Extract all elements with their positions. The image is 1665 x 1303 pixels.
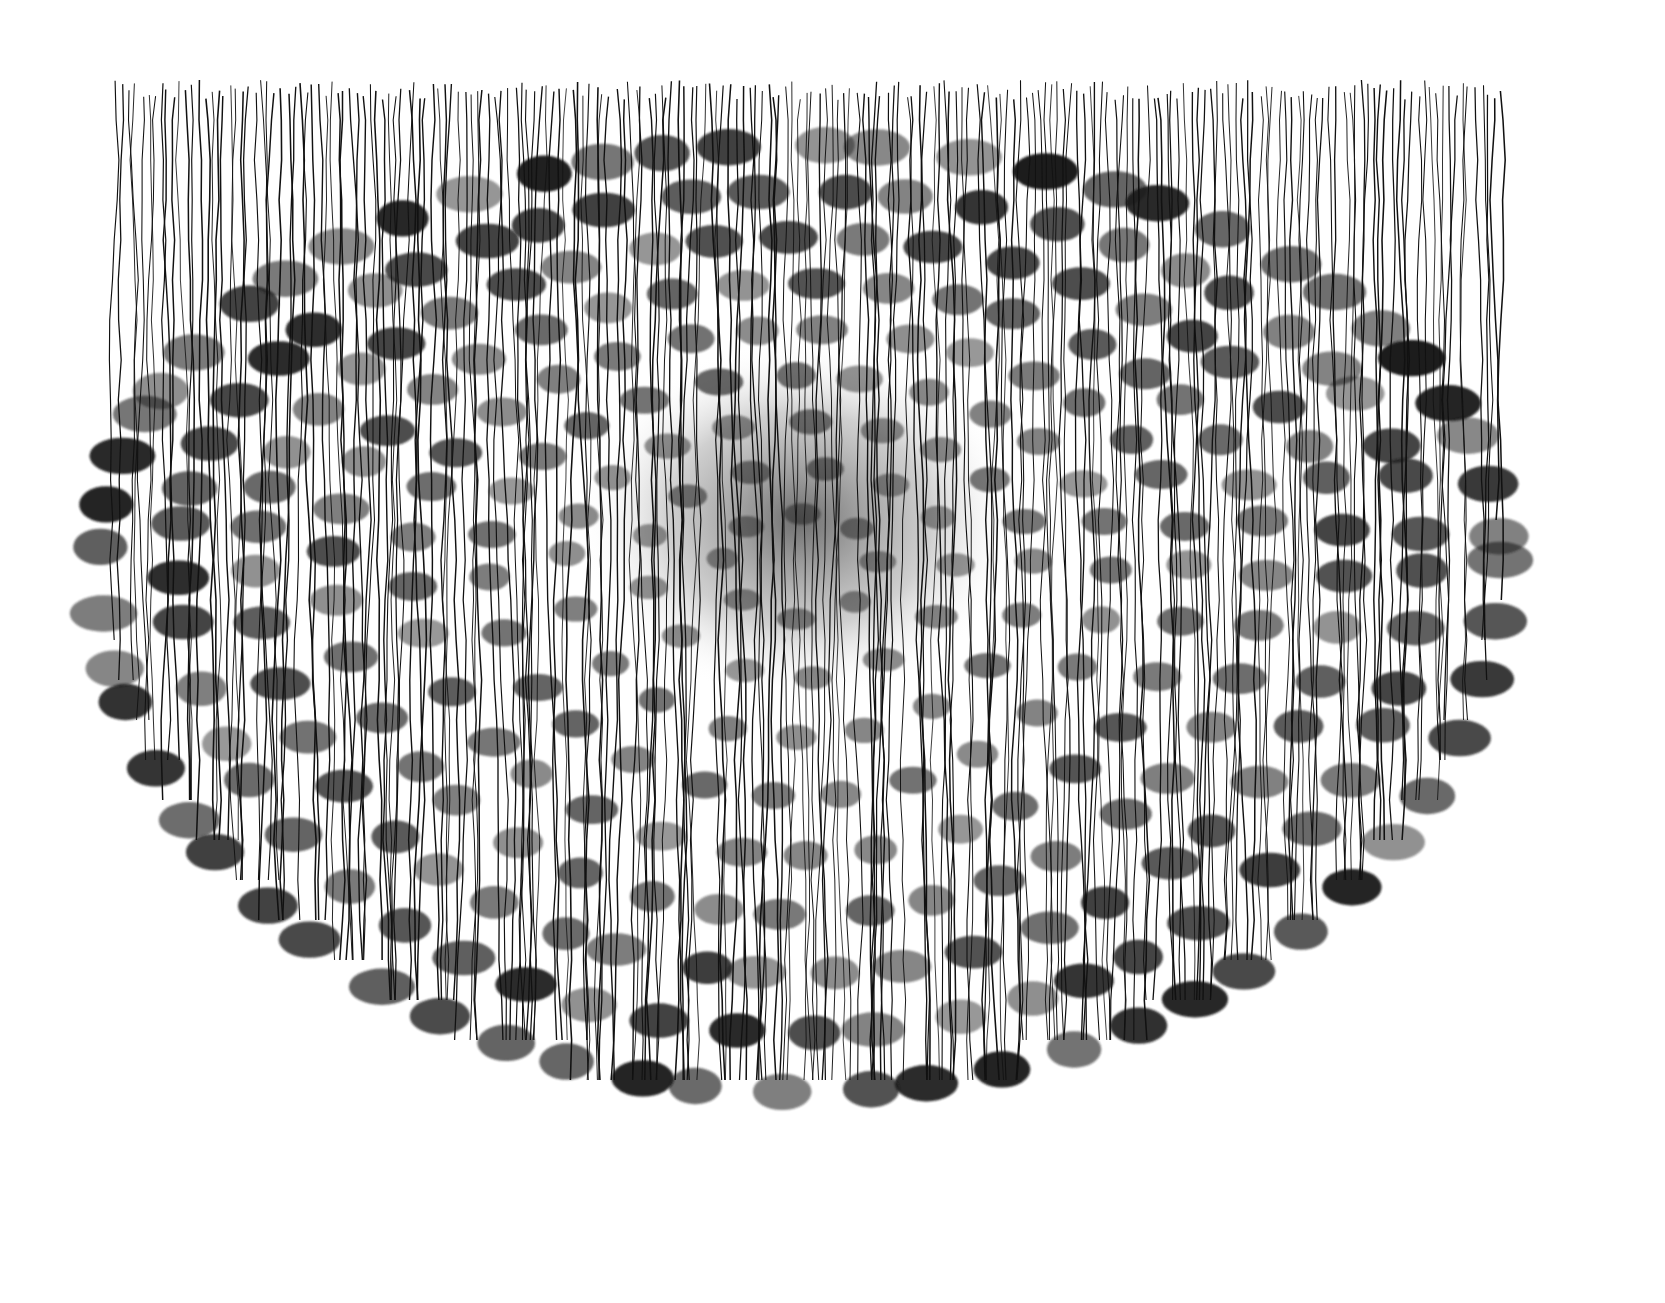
cell-bodies — [70, 127, 1533, 1110]
cell-ring-drawing — [0, 0, 1665, 1303]
